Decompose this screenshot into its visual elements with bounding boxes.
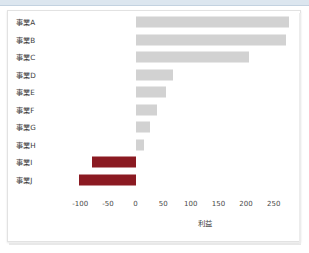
x-axis-tick-label: 0 — [133, 200, 137, 208]
bar — [136, 122, 150, 133]
category-label: 事業E — [16, 87, 68, 97]
category-label: 事業H — [16, 140, 68, 150]
category-label: 事業F — [16, 105, 68, 115]
category-label: 事業J — [16, 175, 68, 185]
category-label: 事業D — [16, 70, 68, 80]
card-shadow-bottom — [9, 243, 301, 245]
bar — [136, 104, 158, 115]
bar — [92, 157, 136, 168]
category-label: 事業C — [16, 52, 68, 62]
bar — [136, 34, 286, 45]
x-axis-tick-label: 50 — [159, 200, 168, 208]
x-axis-title: 利益 — [198, 217, 212, 228]
category-label: 事業I — [16, 157, 68, 167]
category-label: 事業A — [16, 17, 68, 27]
bar — [136, 69, 173, 80]
bar — [136, 52, 250, 63]
x-axis-tick-label: 100 — [184, 200, 197, 208]
bar — [136, 139, 144, 150]
chart-card: 事業A事業B事業C事業D事業E事業F事業G事業H事業I事業J-100-50050… — [7, 10, 301, 242]
category-label: 事業B — [16, 35, 68, 45]
x-axis-tick-label: -50 — [102, 200, 113, 208]
card-shadow-right — [299, 13, 301, 244]
bar — [79, 174, 136, 185]
x-axis-tick-label: 150 — [212, 200, 225, 208]
bar — [136, 17, 289, 28]
bar-chart-plot: 事業A事業B事業C事業D事業E事業F事業G事業H事業I事業J-100-50050… — [8, 11, 302, 243]
x-axis-tick-label: 200 — [239, 200, 252, 208]
bar — [136, 87, 166, 98]
top-accent-divider — [0, 5, 309, 6]
x-axis-tick-label: 250 — [267, 200, 280, 208]
category-label: 事業G — [16, 122, 68, 132]
x-axis-tick-label: -100 — [72, 200, 88, 208]
